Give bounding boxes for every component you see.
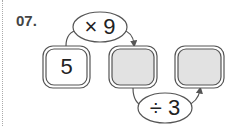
operation-multiply: × 9 — [73, 14, 127, 40]
operation-divide: ÷ 3 — [138, 95, 192, 121]
box-start-value: 5 — [46, 54, 87, 80]
